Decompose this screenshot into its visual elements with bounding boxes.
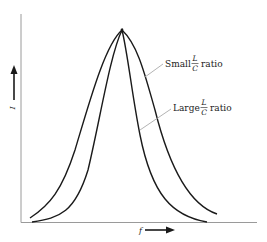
label-large-lc: Large L C ratio (173, 98, 232, 117)
svg-text:ratio: ratio (210, 103, 232, 113)
svg-text:Large: Large (173, 103, 200, 113)
svg-text:L: L (192, 54, 198, 63)
y-axis-label: I (8, 65, 18, 111)
leader-small (145, 64, 163, 77)
peak-point (121, 29, 124, 32)
svg-text:I: I (8, 106, 17, 111)
svg-text:ratio: ratio (201, 59, 223, 69)
svg-text:C: C (192, 64, 198, 73)
resonance-diagram: Small L C ratio Large L C ratio I f (0, 0, 267, 242)
arrow-up-icon (11, 65, 18, 74)
svg-text:f: f (138, 226, 144, 235)
label-small-lc: Small L C ratio (165, 54, 223, 73)
svg-text:Small: Small (165, 59, 191, 69)
svg-text:L: L (201, 98, 207, 107)
svg-text:C: C (201, 108, 207, 117)
x-axis-label: f (138, 226, 175, 235)
arrow-right-icon (166, 227, 175, 234)
